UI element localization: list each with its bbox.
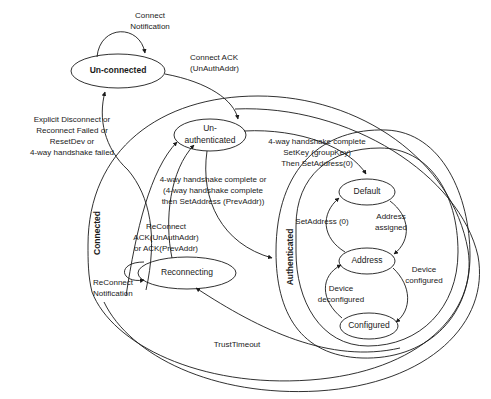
region-label-connected: Connected (92, 211, 102, 255)
region-label-authenticated: Authenticated (285, 229, 295, 286)
edge-label-connect-ack-line2: (UnAuthAddr) (190, 64, 239, 73)
edge-label-handshake-setkey-line1: 4-way handshake complete (268, 137, 366, 146)
state-label-reconnecting: Reconnecting (161, 267, 213, 277)
state-label-un-authenticated-line2: authenticated (184, 135, 235, 145)
edge-label-reconnect-ack-line1: ReConnect (146, 222, 187, 231)
edge-label-setaddress-0: SetAddress (0) (295, 217, 349, 226)
edge-label-explicit-disconnect-line2: Reconnect Failed or (36, 126, 108, 135)
edge-label-device-deconfigured-line2: deconfigured (318, 295, 364, 304)
edge-connect-ack (165, 74, 238, 119)
edge-label-connect-ack-line1: Connect ACK (190, 53, 239, 62)
edge-label-address-assigned-line2: assigned (375, 223, 407, 232)
state-label-default: Default (354, 186, 382, 196)
edge-label-handshake-prevaddr-line2: (4-way handshake complete (163, 186, 264, 195)
edge-label-explicit-disconnect-line1: Explicit Disconnect or (34, 115, 111, 124)
edge-label-address-assigned-line1: Address (376, 212, 405, 221)
edge-label-handshake-prevaddr-line1: 4-way handshake complete or (160, 175, 267, 184)
edge-label-trust-timeout: TrustTimeout (214, 340, 261, 349)
edge-label-handshake-setkey-line2: SetKey (groupKey) (283, 148, 351, 157)
edge-label-connect-notification-line2: Notification (130, 22, 170, 31)
edge-label-reconnect-notification-line1: ReConnect (93, 278, 134, 287)
state-label-configured: Configured (348, 320, 390, 330)
edge-label-explicit-disconnect-line3: ResetDev or (50, 137, 95, 146)
edge-label-device-configured-line2: configured (405, 276, 442, 285)
edge-label-handshake-setkey-line3: Then SetAddress(0) (281, 159, 353, 168)
edge-label-handshake-prevaddr-line3: then SetAddress (PrevAddr)) (162, 197, 265, 206)
edge-label-reconnect-ack-line3: or ACK(PrevAddr) (134, 244, 198, 253)
state-label-address: Address (351, 255, 382, 265)
edge-connect-notification (97, 32, 145, 57)
edge-label-device-configured-line1: Device (412, 265, 437, 274)
state-diagram: Un-connected Un- authenticated Reconnect… (0, 0, 491, 399)
edge-label-device-deconfigured-line1: Device (329, 284, 354, 293)
state-label-un-connected: Un-connected (90, 65, 147, 75)
edge-label-connect-notification-line1: Connect (135, 11, 166, 20)
edge-label-reconnect-ack-line2: ACK(UnAuthAddr) (133, 233, 199, 242)
edge-label-reconnect-notification-line2: Notification (93, 289, 133, 298)
edge-label-explicit-disconnect-line4: 4-way handshake failed (30, 148, 114, 157)
diagram-canvas: Un-connected Un- authenticated Reconnect… (0, 0, 491, 399)
state-label-un-authenticated-line1: Un- (203, 123, 217, 133)
